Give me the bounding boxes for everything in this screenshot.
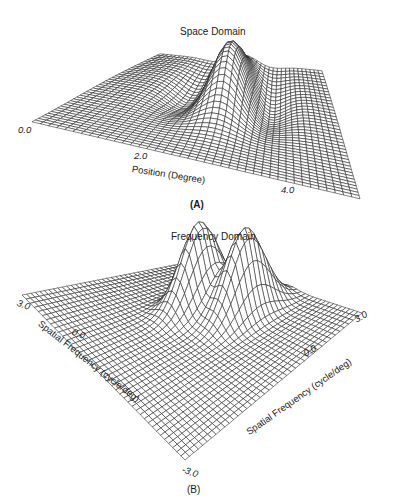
frequency-domain-surface-plot	[0, 215, 395, 502]
panel-label-a: (A)	[190, 199, 204, 210]
frequency-domain-panel: Frequency Domain 3.0 0.0 -3.0 3.0 0.0 Sp…	[0, 215, 395, 502]
x-tick-0: 0.0	[18, 124, 31, 135]
frequency-domain-title: Frequency Domain	[171, 231, 255, 242]
x-tick-4: 4.0	[281, 184, 294, 195]
x-tick-2: 2.0	[134, 150, 147, 161]
space-domain-panel: Space Domain 0.0 2.0 4.0 Position (Degre…	[0, 0, 395, 215]
space-domain-title: Space Domain	[180, 26, 246, 37]
panel-label-b: (B)	[187, 484, 200, 495]
